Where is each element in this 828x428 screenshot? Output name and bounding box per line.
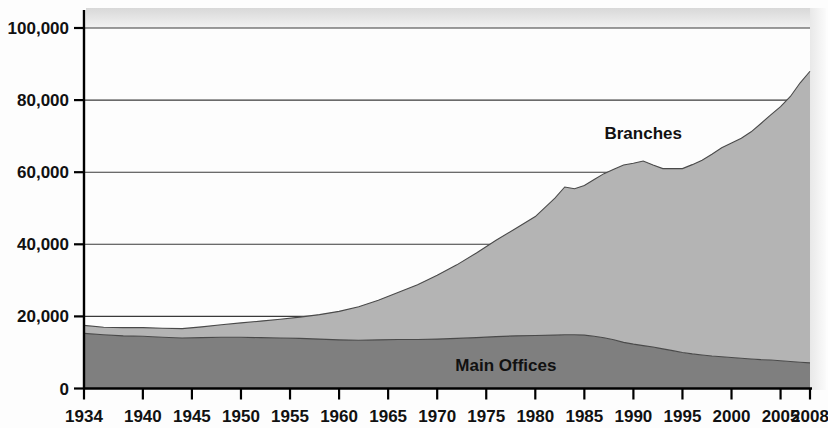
page-scan-shadow-top <box>86 8 816 28</box>
y-tick-label-20000: 20,000 <box>17 307 69 326</box>
x-tick-label-1985: 1985 <box>565 407 603 426</box>
y-tick-label-60000: 60,000 <box>17 163 69 182</box>
page-scan-shadow-right <box>810 8 826 390</box>
area-series-branches <box>84 71 810 363</box>
x-tick-label-1965: 1965 <box>369 407 407 426</box>
x-tick-label-1995: 1995 <box>664 407 702 426</box>
series-label-branches: Branches <box>604 124 681 143</box>
x-tick-label-2000: 2000 <box>713 407 751 426</box>
series-label-main-offices: Main Offices <box>455 356 556 375</box>
x-tick-label-1950: 1950 <box>222 407 260 426</box>
y-tick-label-80000: 80,000 <box>17 91 69 110</box>
x-tick-label-1990: 1990 <box>614 407 652 426</box>
y-tick-label-100000: 100,000 <box>8 19 69 38</box>
y-tick-label-0: 0 <box>60 380 69 399</box>
x-axis-ticks: 1934194019451950195519601965197019751980… <box>65 389 828 426</box>
x-tick-label-1970: 1970 <box>418 407 456 426</box>
x-tick-label-1945: 1945 <box>173 407 211 426</box>
x-tick-label-1940: 1940 <box>124 407 162 426</box>
x-tick-label-1975: 1975 <box>467 407 505 426</box>
x-tick-label-1960: 1960 <box>320 407 358 426</box>
y-tick-label-40000: 40,000 <box>17 235 69 254</box>
chart-container: 020,00040,00060,00080,000100,000 1934194… <box>0 0 828 428</box>
stacked-area-chart: 020,00040,00060,00080,000100,000 1934194… <box>0 0 828 428</box>
y-axis-ticks: 020,00040,00060,00080,000100,000 <box>8 19 84 399</box>
x-tick-label-1955: 1955 <box>271 407 309 426</box>
x-tick-label-2008: 2008 <box>791 407 828 426</box>
x-tick-label-1980: 1980 <box>516 407 554 426</box>
area-series-group <box>84 71 810 388</box>
x-tick-label-1934: 1934 <box>65 407 103 426</box>
